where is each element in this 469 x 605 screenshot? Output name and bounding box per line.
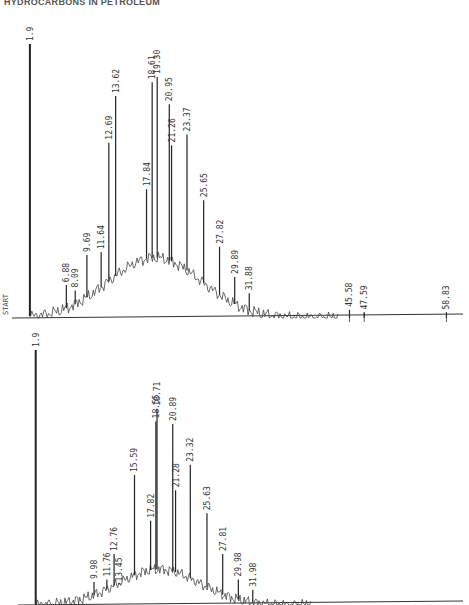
peak-label: 23.37 — [183, 107, 192, 131]
peak-label: 11.76 — [103, 552, 112, 576]
peak-label: 17.84 — [143, 162, 152, 186]
chromatogram-bottom: 1.99.9811.7612.7613.4515.5917.8218.5518.… — [0, 330, 469, 605]
peak-label: 12.76 — [110, 527, 119, 551]
peak-label: 6.88 — [62, 263, 71, 282]
peak-label: 29.98 — [234, 552, 243, 576]
page-header: HYDROCARBONS IN PETROLEUM — [4, 0, 160, 7]
peak-label: 17.82 — [147, 494, 156, 518]
peak-label: 18.71 — [153, 381, 162, 405]
chromatogram-top: 1.96.888.099.6911.6412.6913.6217.8418.61… — [0, 12, 469, 330]
unresolved-complex-mixture-trace — [36, 565, 310, 605]
peak-label: 1.9 — [32, 332, 41, 347]
start-marker-label: START — [2, 294, 10, 315]
peak-label: 27.81 — [219, 527, 228, 551]
peak-label: 8.09 — [71, 268, 80, 287]
peak-label: 29.89 — [231, 250, 240, 274]
peak-label: 9.69 — [83, 233, 92, 252]
chromatogram-bottom-plot: 1.99.9811.7612.7613.4515.5917.8218.5518.… — [0, 330, 469, 605]
peak-label: 20.95 — [165, 77, 174, 101]
peak-label: 47.59 — [360, 285, 369, 309]
peak-label: 9.98 — [90, 560, 99, 579]
peak-label: 23.32 — [186, 437, 195, 461]
peak-label: 21.28 — [172, 463, 181, 487]
baseline — [12, 314, 463, 318]
peak-label: 31.98 — [249, 562, 258, 586]
peak-label: 27.82 — [216, 219, 225, 243]
peak-label: 58.83 — [442, 285, 451, 309]
chromatogram-top-plot: 1.96.888.099.6911.6412.6913.6217.8418.61… — [0, 12, 469, 330]
peak-label: 12.69 — [105, 115, 114, 139]
peak-label: 25.63 — [203, 486, 212, 510]
peak-label: 21.26 — [168, 118, 177, 142]
peak-label: 15.59 — [131, 448, 140, 472]
peak-label: 25.65 — [200, 173, 209, 197]
peak-label: 13.45 — [115, 557, 124, 581]
peak-label: 45.58 — [345, 283, 354, 307]
peak-label: 20.89 — [169, 397, 178, 421]
peak-label: 1.9 — [26, 26, 35, 41]
peak-label: 13.62 — [112, 69, 121, 93]
peak-label: 31.88 — [245, 266, 254, 290]
peak-label: 19.30 — [153, 50, 162, 74]
peak-label: 11.64 — [97, 225, 106, 249]
